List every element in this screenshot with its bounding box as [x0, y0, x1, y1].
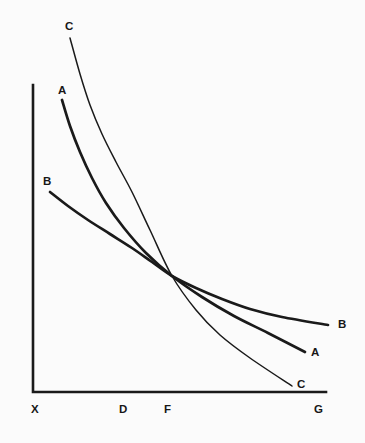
x-tick-label-x: X: [31, 404, 39, 416]
chart-plot-area: [0, 0, 365, 443]
x-tick-label-d: D: [119, 404, 128, 416]
chart-figure: X D F G C A B B A C: [0, 0, 365, 443]
curve-label-b-right: B: [338, 319, 347, 331]
axis-group: [33, 85, 326, 392]
curve-label-a-right: A: [311, 347, 320, 359]
axis-lines: [33, 85, 326, 392]
x-tick-label-f: F: [164, 404, 171, 416]
curve-label-a-top: A: [58, 85, 67, 97]
curve-b: [50, 192, 328, 325]
curve-label-c-right: C: [297, 379, 306, 391]
x-tick-label-g: G: [314, 404, 323, 416]
curve-label-b-top: B: [43, 176, 52, 188]
curve-label-c-top: C: [65, 21, 74, 33]
curves-group: [50, 38, 328, 386]
curve-c: [70, 38, 292, 386]
